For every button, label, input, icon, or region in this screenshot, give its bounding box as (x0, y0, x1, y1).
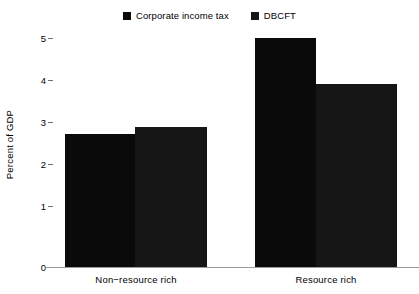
bar-resource-dbcft[interactable] (316, 84, 397, 267)
x-axis-tick-label-resource-rich: Resource rich (246, 274, 406, 285)
bar-resource-corporate-income-tax[interactable] (255, 38, 316, 267)
y-axis-tick-mark-2 (48, 164, 53, 165)
y-axis-tick-label-0: 0 (26, 262, 46, 273)
y-axis-tick-label-4: 4 (26, 75, 46, 86)
bar-nonresource-corporate-income-tax[interactable] (65, 134, 135, 267)
y-axis-tick-label-1: 1 (26, 201, 46, 212)
y-axis-tick-mark-4 (48, 80, 53, 81)
y-axis-tick-label-3: 3 (26, 117, 46, 128)
plot-area: 5 4 3 2 1 0 Percent of GDP Non−resource … (0, 0, 419, 294)
bar-nonresource-dbcft[interactable] (135, 127, 207, 267)
y-axis-tick-mark-5 (48, 38, 53, 39)
x-axis-tick-label-nonresource-rich: Non−resource rich (56, 274, 216, 285)
y-axis-tick-mark-1 (48, 206, 53, 207)
y-axis-tick-mark-3 (48, 122, 53, 123)
x-axis-line (45, 267, 419, 268)
y-axis-tick-label-5: 5 (26, 33, 46, 44)
bar-chart: Corporate income tax DBCFT 5 4 3 2 1 0 P… (0, 0, 419, 294)
y-axis-title: Percent of GDP (4, 100, 15, 190)
y-axis-tick-label-2: 2 (26, 159, 46, 170)
